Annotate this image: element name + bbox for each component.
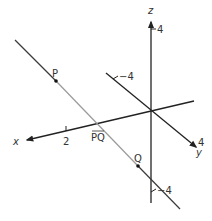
point-q-label: Q — [134, 153, 142, 164]
z-tick-negative — [151, 189, 156, 192]
segment-pq-label: PQ — [91, 132, 105, 143]
x-tick-label-2: 2 — [63, 136, 69, 147]
x-axis-label: x — [12, 136, 19, 147]
y-tick-negative — [113, 76, 118, 79]
point-q — [136, 164, 140, 168]
y-tick-label-negative: −4 — [119, 71, 134, 82]
line-upper-segment — [15, 40, 56, 81]
y-axis-label: y — [195, 147, 203, 158]
x-axis — [27, 101, 194, 140]
point-p — [54, 79, 58, 83]
z-tick-label-negative: −4 — [157, 185, 172, 196]
coordinate-diagram: z 4 −4 x 2 −4 4 y P Q PQ — [0, 0, 212, 221]
z-axis-label: z — [147, 5, 154, 16]
segment-pq — [56, 81, 138, 166]
z-tick-label-positive: 4 — [157, 24, 163, 35]
point-p-label: P — [52, 68, 58, 79]
